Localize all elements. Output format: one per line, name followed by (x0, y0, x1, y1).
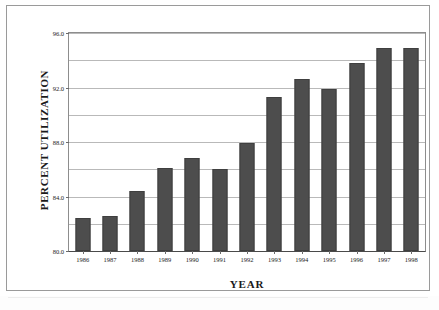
bar-slot: 1997 (370, 33, 397, 251)
bar-slot: 1987 (96, 33, 123, 251)
x-axis-tick-mark (137, 251, 138, 254)
bar-slot: 1990 (179, 33, 206, 251)
x-axis-tick-label: 1994 (295, 256, 308, 263)
y-axis-tick-label: 84.0 (53, 193, 64, 200)
y-axis-tick-label: 88.0 (53, 139, 64, 146)
bar-slot: 1995 (315, 33, 342, 251)
x-axis-tick-mark (302, 251, 303, 254)
x-axis-tick-mark (110, 251, 111, 254)
x-axis-tick-label: 1989 (158, 256, 171, 263)
bar[interactable] (130, 191, 145, 251)
bar[interactable] (294, 79, 309, 251)
bar-slot: 1992 (233, 33, 260, 251)
bar[interactable] (267, 97, 282, 251)
bar-series: 1986198719881989199019911992199319941995… (69, 33, 425, 251)
bar[interactable] (103, 216, 118, 251)
x-axis-tick-label: 1991 (213, 256, 226, 263)
bar-slot: 1998 (398, 33, 425, 251)
bar[interactable] (157, 168, 172, 251)
x-axis-tick-mark (384, 251, 385, 254)
y-axis-tick-label: 96.0 (53, 30, 64, 37)
bar[interactable] (185, 158, 200, 251)
x-axis-tick-label: 1986 (76, 256, 89, 263)
bar[interactable] (322, 89, 337, 251)
x-axis-tick-mark (274, 251, 275, 254)
bar-slot: 1996 (343, 33, 370, 251)
x-axis-tick-label: 1996 (350, 256, 363, 263)
bar-slot: 1993 (261, 33, 288, 251)
plot-area: 96.092.088.084.080.0 1986198719881989199… (68, 32, 426, 252)
y-axis-title: PERCENT UTILIZATION (38, 25, 50, 255)
x-axis-tick-mark (192, 251, 193, 254)
x-axis-tick-label: 1998 (405, 256, 418, 263)
x-axis-tick-mark (357, 251, 358, 254)
bar-slot: 1989 (151, 33, 178, 251)
bar[interactable] (239, 143, 254, 251)
x-axis-tick-mark (220, 251, 221, 254)
y-axis-tick-mark (66, 251, 69, 252)
bar-slot: 1994 (288, 33, 315, 251)
x-axis-tick-label: 1987 (104, 256, 117, 263)
bar[interactable] (75, 218, 90, 251)
x-axis-title: YEAR (68, 278, 426, 290)
bar-slot: 1988 (124, 33, 151, 251)
bar[interactable] (212, 169, 227, 251)
page-edge-shade (0, 296, 439, 310)
bar-slot: 1986 (69, 33, 96, 251)
x-axis-tick-label: 1995 (323, 256, 336, 263)
y-axis-tick-label: 80.0 (53, 248, 64, 255)
bar[interactable] (349, 63, 364, 251)
page-edge-line (8, 297, 428, 298)
figure-frame: PERCENT UTILIZATION 96.092.088.084.080.0… (6, 5, 430, 291)
x-axis-tick-mark (83, 251, 84, 254)
bar-slot: 1991 (206, 33, 233, 251)
bar[interactable] (376, 48, 391, 251)
x-axis-tick-mark (329, 251, 330, 254)
x-axis-tick-mark (247, 251, 248, 254)
x-axis-tick-label: 1992 (240, 256, 253, 263)
x-axis-tick-mark (165, 251, 166, 254)
y-axis-tick-label: 92.0 (53, 84, 64, 91)
x-axis-tick-label: 1993 (268, 256, 281, 263)
x-axis-tick-mark (411, 251, 412, 254)
x-axis-tick-label: 1990 (186, 256, 199, 263)
x-axis-tick-label: 1997 (377, 256, 390, 263)
bar[interactable] (404, 48, 419, 251)
chart-page: PERCENT UTILIZATION 96.092.088.084.080.0… (0, 0, 439, 310)
x-axis-tick-label: 1988 (131, 256, 144, 263)
